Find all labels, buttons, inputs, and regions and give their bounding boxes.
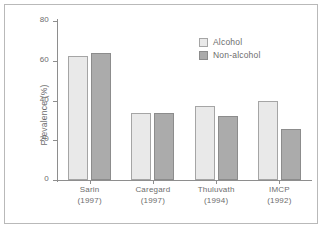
y-tick-60: 60 [53, 61, 58, 62]
bar-imcp-non-alcohol [281, 129, 301, 180]
legend-item-non-alcohol[interactable]: Non-alcohol [199, 49, 261, 61]
y-tick-label-80: 80 [40, 15, 49, 24]
category-year: (1992) [239, 195, 319, 206]
x-axis-line [57, 180, 312, 181]
bar-thuluvath-non-alcohol [218, 116, 238, 180]
plot-area: 0 20 40 60 80 [58, 21, 311, 180]
legend: Alcohol Non-alcohol [199, 36, 261, 62]
y-tick-20: 20 [53, 140, 58, 141]
y-tick-label-20: 20 [40, 134, 49, 143]
y-tick-label-60: 60 [40, 55, 49, 64]
figure: Prevalence (%) 0 20 40 60 80 Sarin(1997)… [0, 0, 323, 229]
bar-sarin-alcohol [68, 56, 88, 180]
bar-thuluvath-alcohol [195, 106, 215, 180]
bar-imcp-alcohol [258, 101, 278, 181]
y-tick-80: 80 [53, 21, 58, 22]
category-name: IMCP [239, 184, 319, 195]
bar-caregard-non-alcohol [154, 113, 174, 180]
legend-swatch-non-alcohol-icon [199, 51, 208, 60]
y-tick-label-40: 40 [40, 95, 49, 104]
legend-label-alcohol: Alcohol [213, 37, 242, 47]
legend-item-alcohol[interactable]: Alcohol [199, 36, 261, 48]
bar-sarin-non-alcohol [91, 53, 111, 180]
bar-caregard-alcohol [131, 113, 151, 180]
category-label-imcp: IMCP(1992) [239, 184, 319, 206]
y-tick-40: 40 [53, 101, 58, 102]
y-tick-label-0: 0 [44, 174, 49, 183]
legend-label-non-alcohol: Non-alcohol [213, 50, 261, 60]
y-tick-0: 0 [53, 180, 58, 181]
legend-swatch-alcohol-icon [199, 38, 208, 47]
